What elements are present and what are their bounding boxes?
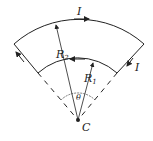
outer-radius-line bbox=[56, 25, 78, 120]
sector-loop-diagram: I I R2 R1 θ C bbox=[0, 0, 153, 141]
label-center: C bbox=[82, 121, 91, 134]
outer-arc bbox=[14, 19, 144, 44]
label-current-top: I bbox=[76, 5, 82, 18]
right-radial-wire bbox=[117, 44, 144, 73]
label-outer-radius: R2 bbox=[55, 48, 69, 62]
left-dashed-line bbox=[38, 73, 78, 120]
label-current-right: I bbox=[134, 61, 140, 74]
inner-arc bbox=[38, 58, 117, 73]
label-angle: θ bbox=[76, 93, 81, 102]
label-inner-radius: R1 bbox=[83, 72, 97, 86]
center-point bbox=[76, 118, 80, 122]
current-arrow-left bbox=[16, 52, 24, 62]
left-radial-wire bbox=[14, 44, 38, 73]
